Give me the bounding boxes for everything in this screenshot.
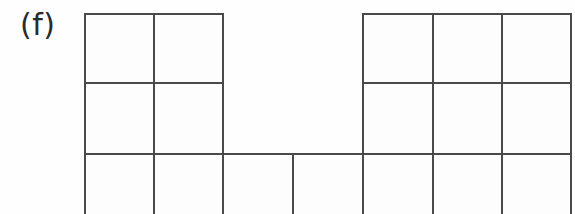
cell-r2c3	[293, 154, 363, 214]
cell-r2c1	[154, 154, 223, 214]
cell-r0c1	[154, 14, 223, 83]
cell-r2c0	[85, 154, 154, 214]
cell-r0c6	[502, 14, 571, 83]
cell-r2c2	[223, 154, 293, 214]
figure-panel: (f)	[0, 0, 575, 214]
cell-r2c4	[363, 154, 433, 214]
cell-r0c0	[85, 14, 154, 83]
cell-r0c5	[433, 14, 502, 83]
polyomino-grid	[0, 0, 575, 214]
cell-r1c0	[85, 83, 154, 154]
cell-r1c5	[433, 83, 502, 154]
cell-r0c4	[363, 14, 433, 83]
cell-faces	[85, 14, 571, 214]
cell-r1c6	[502, 83, 571, 154]
cell-r1c1	[154, 83, 223, 154]
cell-r2c5	[433, 154, 502, 214]
cell-r2c6	[502, 154, 571, 214]
cell-r1c4	[363, 83, 433, 154]
